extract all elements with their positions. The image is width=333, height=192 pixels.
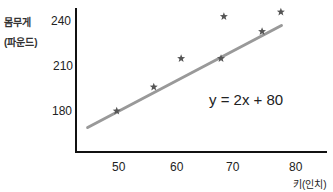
regression-equation: y = 2x + 80 bbox=[209, 91, 283, 108]
x-tick-80: 80 bbox=[289, 160, 302, 174]
star-marker-icon bbox=[277, 8, 285, 16]
x-axis-title: 키(인치) bbox=[293, 176, 327, 191]
x-tick-50: 50 bbox=[112, 160, 125, 174]
y-tick-180: 180 bbox=[52, 104, 72, 118]
y-tick-210: 210 bbox=[53, 59, 73, 73]
x-tick-70: 70 bbox=[226, 160, 239, 174]
star-marker-icon bbox=[150, 83, 158, 91]
y-axis-title-line1: 몸무게 bbox=[4, 14, 31, 29]
star-marker-icon bbox=[220, 12, 228, 20]
x-tick-60: 60 bbox=[170, 160, 183, 174]
star-marker-icon bbox=[177, 54, 185, 62]
y-tick-240: 240 bbox=[51, 14, 71, 28]
y-axis-title-line2: (파운드) bbox=[4, 34, 38, 49]
